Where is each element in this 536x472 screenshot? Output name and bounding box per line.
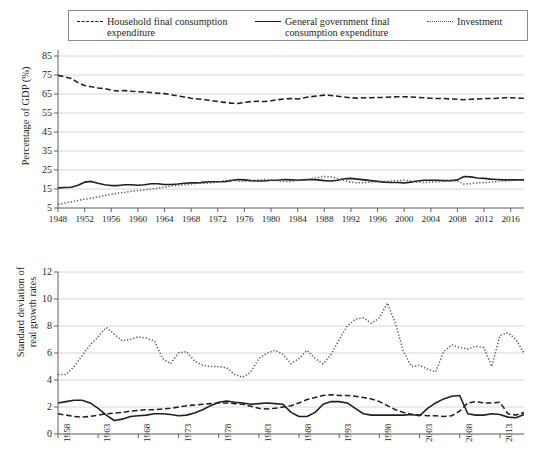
chart-panel-top: Percentage of GDP (%) 51525354555657585 … [0, 44, 536, 236]
solid-line-icon [255, 16, 281, 27]
chart-panel-bottom: Standard deviation of real growth rates … [0, 248, 536, 472]
legend-label-household: Household final consumption expenditure [107, 16, 228, 39]
chart-legend: Household final consumption expenditure … [68, 10, 528, 41]
legend-label-investment: Investment [457, 16, 502, 27]
legend-item-household: Household final consumption expenditure [77, 16, 228, 39]
dotted-line-icon [427, 16, 453, 27]
series-line-dotted [58, 303, 524, 377]
series-line-dashed [58, 395, 524, 417]
dashed-line-icon [77, 16, 103, 27]
series-line-dashed [58, 75, 524, 103]
series-line-solid [58, 176, 524, 187]
plot-area-top [0, 44, 536, 236]
legend-item-investment: Investment [427, 16, 502, 27]
legend-label-government: General government final consumption exp… [285, 16, 390, 39]
figure-root: Household final consumption expenditure … [0, 0, 536, 472]
series-line-solid [58, 396, 524, 421]
plot-area-bottom [0, 248, 536, 472]
legend-item-government: General government final consumption exp… [255, 16, 390, 39]
